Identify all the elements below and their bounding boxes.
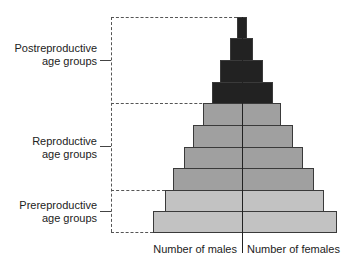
bracket-top-dashed-line (111, 17, 237, 18)
reproductive-label-line1: Reproductive (32, 135, 97, 148)
bracket-repro-prerepro-boundary-line (111, 190, 165, 191)
reproductive-age-bar (173, 168, 314, 191)
prereproductive-age-bar (153, 211, 337, 233)
male-female-divider-line (242, 17, 243, 253)
reproductive-tick (100, 146, 111, 147)
males-axis-label: Number of males (153, 243, 237, 256)
prereproductive-label-line1: Prereproductive (19, 199, 97, 212)
reproductive-age-bar (184, 147, 303, 169)
postreproductive-label-line2: age groups (14, 55, 97, 68)
prereproductive-label: Prereproductive age groups (19, 199, 97, 225)
reproductive-label: Reproductive age groups (32, 135, 97, 161)
prereproductive-age-bar (165, 190, 324, 212)
prereproductive-label-line2: age groups (19, 212, 97, 225)
bracket-bottom-dashed-line (111, 232, 153, 233)
bracket-vertical-dashed-line (111, 17, 112, 232)
females-axis-label: Number of females (247, 243, 340, 256)
postreproductive-label: Postreproductive age groups (14, 42, 97, 68)
bracket-post-repro-boundary-line (111, 103, 212, 104)
reproductive-age-bar (193, 125, 293, 148)
reproductive-label-line2: age groups (32, 148, 97, 161)
postreproductive-label-line1: Postreproductive (14, 42, 97, 55)
prereproductive-tick (100, 211, 111, 212)
postreproductive-tick (100, 60, 111, 61)
